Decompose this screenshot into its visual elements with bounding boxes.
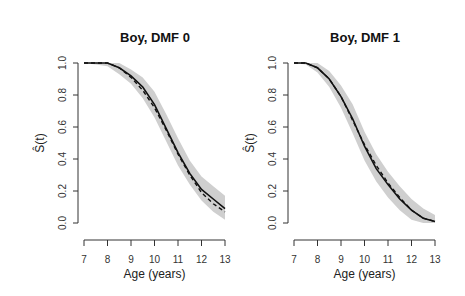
y-tick-label: 0.0: [57, 216, 68, 230]
y-axis-label: Ŝ(t): [32, 133, 47, 152]
x-tick-label: 8: [315, 254, 321, 265]
x-axis-label: Age (years): [123, 267, 185, 281]
panel-boy-dmf-1: Boy, DMF 10.00.20.40.60.81.0Ŝ(t)78910111…: [242, 30, 441, 281]
confidence-band: [294, 63, 435, 223]
x-tick-label: 7: [291, 254, 297, 265]
y-tick-label: 0.0: [267, 216, 278, 230]
panel-boy-dmf-0: Boy, DMF 00.00.20.40.60.81.0Ŝ(t)78910111…: [32, 30, 231, 281]
x-tick-label: 12: [406, 254, 418, 265]
y-tick-label: 0.8: [57, 88, 68, 102]
x-tick-label: 7: [81, 254, 87, 265]
x-tick-label: 10: [359, 254, 371, 265]
x-tick-label: 12: [196, 254, 208, 265]
x-tick-label: 9: [128, 254, 134, 265]
chart-title: Boy, DMF 1: [330, 30, 400, 45]
figure: Boy, DMF 00.00.20.40.60.81.0Ŝ(t)78910111…: [0, 0, 465, 296]
x-tick-label: 8: [105, 254, 111, 265]
chart-title: Boy, DMF 0: [120, 30, 190, 45]
y-tick-label: 0.2: [57, 184, 68, 198]
x-tick-label: 11: [173, 254, 184, 265]
y-axis-label: Ŝ(t): [242, 133, 257, 152]
y-tick-label: 0.4: [267, 152, 278, 166]
confidence-band: [84, 63, 225, 220]
x-axis-label: Age (years): [333, 267, 395, 281]
y-tick-label: 0.4: [57, 152, 68, 166]
y-tick-label: 1.0: [267, 56, 278, 70]
y-tick-label: 0.6: [267, 120, 278, 134]
y-tick-label: 0.8: [267, 88, 278, 102]
x-tick-label: 9: [338, 254, 344, 265]
x-tick-label: 10: [149, 254, 161, 265]
x-tick-label: 11: [383, 254, 394, 265]
x-tick-label: 13: [429, 254, 441, 265]
y-tick-label: 0.6: [57, 120, 68, 134]
x-tick-label: 13: [219, 254, 231, 265]
y-tick-label: 0.2: [267, 184, 278, 198]
y-tick-label: 1.0: [57, 56, 68, 70]
